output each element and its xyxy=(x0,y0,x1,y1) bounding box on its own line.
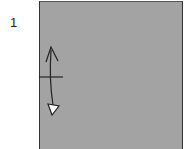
fold-unfold-arrow-icon xyxy=(0,0,193,149)
